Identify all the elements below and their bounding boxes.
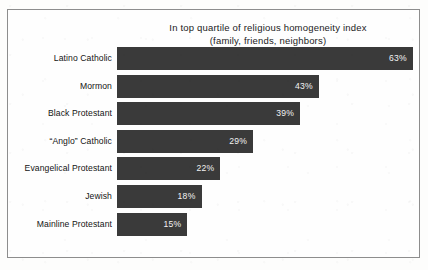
- bar-row: Latino Catholic63%: [0, 47, 428, 70]
- bar: 43%: [117, 75, 319, 98]
- bar-value-label: 39%: [276, 102, 294, 125]
- bar-value-label: 18%: [178, 185, 196, 208]
- bar: 63%: [117, 47, 413, 70]
- bar-value-label: 15%: [163, 213, 181, 236]
- bar-row: “Anglo” Catholic29%: [0, 130, 428, 153]
- bar: 22%: [117, 157, 220, 180]
- bar-value-label: 29%: [229, 130, 247, 153]
- bar-row: Jewish18%: [0, 185, 428, 208]
- chart-subtitle: (family, friends, neighbors): [118, 35, 418, 48]
- bar-value-label: 63%: [389, 47, 407, 70]
- bar-value-label: 43%: [295, 75, 313, 98]
- bar-category-label: Mormon: [8, 75, 112, 98]
- bar-row: Evangelical Protestant22%: [0, 157, 428, 180]
- chart-title: In top quartile of religious homogeneity…: [118, 22, 418, 47]
- chart-title-line1: In top quartile of religious homogeneity…: [169, 22, 366, 33]
- bar-category-label: Evangelical Protestant: [8, 157, 112, 180]
- bar-category-label: Mainline Protestant: [8, 213, 112, 236]
- bar: 29%: [117, 130, 253, 153]
- bar-row: Mormon43%: [0, 75, 428, 98]
- bar-category-label: Black Protestant: [8, 102, 112, 125]
- bar: 18%: [117, 185, 202, 208]
- bar-row: Mainline Protestant15%: [0, 213, 428, 236]
- bar-category-label: “Anglo” Catholic: [8, 130, 112, 153]
- bar-row: Black Protestant39%: [0, 102, 428, 125]
- bar-category-label: Jewish: [8, 185, 112, 208]
- bar: 39%: [117, 102, 300, 125]
- chart-screenshot: In top quartile of religious homogeneity…: [0, 0, 428, 270]
- bar-chart-plot-area: Latino Catholic63%Mormon43%Black Protest…: [0, 47, 428, 243]
- bar: 15%: [117, 213, 187, 236]
- bar-value-label: 22%: [196, 157, 214, 180]
- bar-category-label: Latino Catholic: [8, 47, 112, 70]
